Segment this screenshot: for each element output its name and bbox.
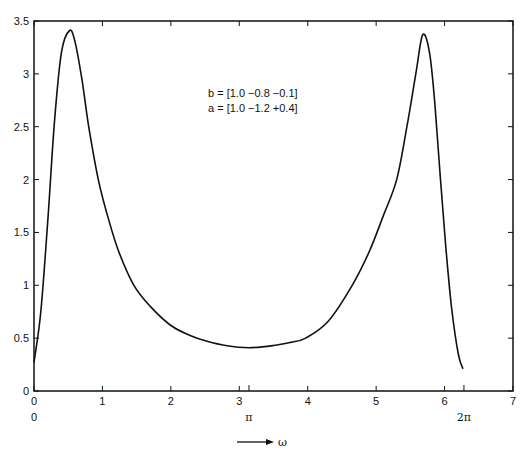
y-tick-label: 1.5 bbox=[14, 226, 29, 238]
secondary-x-label: 2π bbox=[457, 411, 471, 424]
series-line-magnitude bbox=[34, 30, 463, 369]
ticks-layer bbox=[34, 21, 513, 391]
x-tick-label: 5 bbox=[373, 395, 379, 407]
x-tick-label: 6 bbox=[442, 395, 448, 407]
x-tick-label: 7 bbox=[510, 395, 516, 407]
y-tick-label: 0 bbox=[23, 385, 29, 397]
x-tick-label: 0 bbox=[31, 395, 37, 407]
arrow-head-icon bbox=[266, 439, 274, 445]
secondary-x-label: π bbox=[245, 411, 252, 424]
x-tick-label: 2 bbox=[168, 395, 174, 407]
y-tick-label: 2 bbox=[23, 174, 29, 186]
y-tick-label: 2.5 bbox=[14, 121, 29, 133]
y-tick-label: 1 bbox=[23, 279, 29, 291]
x-tick-label: 3 bbox=[236, 395, 242, 407]
x-axis-label-omega: ω bbox=[278, 436, 287, 449]
x-tick-label: 4 bbox=[305, 395, 311, 407]
chart: 0123456700.511.522.533.50π2π b = [1.0 −0… bbox=[0, 0, 526, 454]
omega-axis-arrow: ω bbox=[237, 436, 287, 449]
annotation-b-coefficients: b = [1.0 −0.8 −0.1] bbox=[208, 87, 298, 99]
y-tick-label: 0.5 bbox=[14, 332, 29, 344]
annotation-a-coefficients: a = [1.0 −1.2 +0.4] bbox=[208, 102, 298, 114]
y-tick-label: 3 bbox=[23, 68, 29, 80]
plot-frame bbox=[34, 21, 513, 391]
secondary-x-label: 0 bbox=[31, 411, 37, 423]
y-tick-label: 3.5 bbox=[14, 15, 29, 27]
x-tick-label: 1 bbox=[99, 395, 105, 407]
tick-labels-layer: 0123456700.511.522.533.50π2π bbox=[14, 15, 516, 424]
